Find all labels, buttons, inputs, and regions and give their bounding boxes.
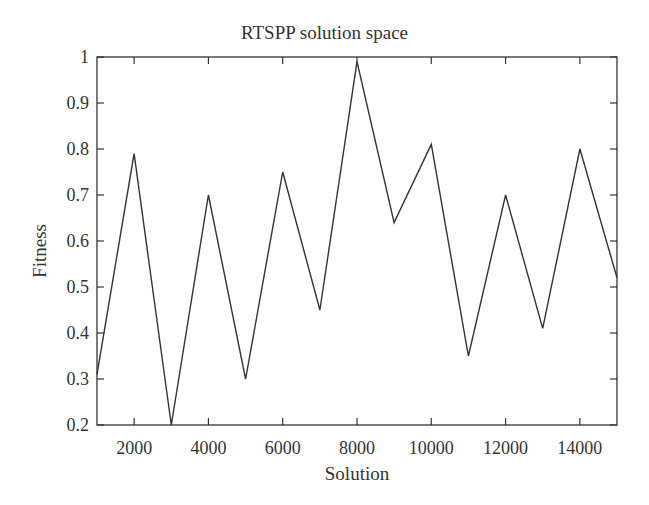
plot-border (97, 57, 617, 425)
y-tick-label: 0.5 (67, 277, 90, 297)
x-tick-label: 12000 (483, 438, 528, 458)
y-tick-label: 1 (80, 47, 89, 67)
y-axis-ticks: 0.20.30.40.50.60.70.80.91 (67, 47, 618, 435)
x-tick-label: 4000 (190, 438, 226, 458)
x-tick-label: 8000 (339, 438, 375, 458)
axes-frame (97, 57, 617, 425)
data-series (97, 62, 617, 425)
y-tick-label: 0.4 (67, 323, 90, 343)
series-line (97, 62, 617, 425)
x-tick-label: 10000 (409, 438, 454, 458)
y-tick-label: 0.7 (67, 185, 90, 205)
x-tick-label: 14000 (557, 438, 602, 458)
y-tick-label: 0.3 (67, 369, 90, 389)
x-tick-label: 6000 (265, 438, 301, 458)
y-tick-label: 0.2 (67, 415, 90, 435)
line-chart: RTSPP solution space Fitness Solution 20… (0, 0, 649, 505)
y-tick-label: 0.9 (67, 93, 90, 113)
y-tick-label: 0.8 (67, 139, 90, 159)
plot-area: 2000400060008000100001200014000 0.20.30.… (0, 0, 649, 505)
x-tick-label: 2000 (116, 438, 152, 458)
y-tick-label: 0.6 (67, 231, 90, 251)
x-axis-ticks: 2000400060008000100001200014000 (116, 57, 602, 458)
